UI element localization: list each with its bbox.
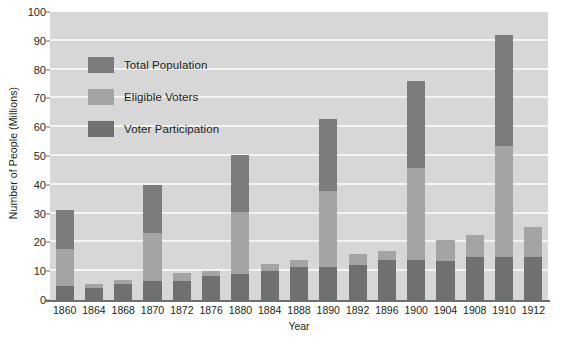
chart-legend: Total PopulationEligible VotersVoter Par…: [88, 54, 219, 150]
legend-item-label: Eligible Voters: [124, 91, 198, 103]
y-tick-label: 50: [18, 151, 46, 162]
x-tick-label: 1908: [463, 303, 486, 317]
bar-segment-eligible-voters: [349, 254, 367, 265]
bar-segment-voter-participation: [495, 257, 513, 300]
bar-segment-eligible-voters: [261, 264, 279, 271]
bar-segment-eligible-voters: [143, 233, 161, 281]
x-axis-title: Year: [50, 320, 548, 332]
bar-group[interactable]: [114, 280, 132, 300]
y-tick-label: 40: [18, 179, 46, 190]
x-tick-label: 1896: [375, 303, 398, 317]
x-axis-line: [46, 300, 550, 302]
bar-segment-voter-participation: [114, 284, 132, 300]
bar-segment-voter-participation: [319, 267, 337, 300]
y-tick-mark: [46, 69, 50, 70]
bar-segment-voter-participation: [524, 257, 542, 300]
bar-group[interactable]: [173, 273, 191, 300]
bar-segment-voter-participation: [290, 267, 308, 300]
legend-item[interactable]: Voter Participation: [88, 118, 219, 140]
y-tick-mark: [46, 98, 50, 99]
legend-item[interactable]: Eligible Voters: [88, 86, 219, 108]
bar-group[interactable]: [143, 185, 161, 300]
bar-group[interactable]: [261, 264, 279, 300]
bar-group[interactable]: [466, 235, 484, 300]
x-tick-label: 1900: [404, 303, 427, 317]
bar-segment-voter-participation: [202, 276, 220, 300]
bar-group[interactable]: [231, 155, 249, 300]
x-tick-label: 1876: [199, 303, 222, 317]
y-tick-label: 70: [18, 93, 46, 104]
legend-item[interactable]: Total Population: [88, 54, 219, 76]
bar-segment-eligible-voters: [466, 235, 484, 257]
y-tick-label: 20: [18, 237, 46, 248]
y-tick-mark: [46, 300, 50, 301]
y-tick-label: 80: [18, 64, 46, 75]
x-tick-label: 1904: [434, 303, 457, 317]
bar-segment-eligible-voters: [290, 260, 308, 267]
y-tick-label: 60: [18, 122, 46, 133]
y-tick-mark: [46, 271, 50, 272]
bar-chart: Number of People (Millions) 010203040506…: [0, 0, 572, 337]
x-tick-label: 1912: [522, 303, 545, 317]
x-tick-label: 1888: [287, 303, 310, 317]
y-tick-label: 100: [18, 7, 46, 18]
x-tick-label: 1860: [53, 303, 76, 317]
legend-swatch-icon: [88, 57, 114, 73]
y-axis-ticks: 0102030405060708090100: [18, 12, 46, 300]
bar-group[interactable]: [349, 254, 367, 300]
bar-segment-voter-participation: [261, 271, 279, 300]
bar-group[interactable]: [407, 81, 425, 300]
bar-segment-eligible-voters: [378, 251, 396, 260]
legend-item-label: Total Population: [124, 59, 207, 71]
y-tick-mark: [46, 12, 50, 13]
bar-group[interactable]: [495, 35, 513, 300]
bar-segment-voter-participation: [349, 265, 367, 300]
x-tick-label: 1864: [82, 303, 105, 317]
bar-segment-eligible-voters: [56, 249, 74, 287]
x-tick-label: 1910: [492, 303, 515, 317]
bar-group[interactable]: [56, 210, 74, 300]
x-tick-label: 1872: [170, 303, 193, 317]
x-tick-label: 1870: [141, 303, 164, 317]
bar-segment-eligible-voters: [524, 227, 542, 257]
bar-segment-voter-participation: [231, 274, 249, 300]
bar-segment-eligible-voters: [436, 240, 454, 262]
legend-swatch-icon: [88, 89, 114, 105]
y-tick-mark: [46, 156, 50, 157]
bar-group[interactable]: [202, 271, 220, 300]
bar-segment-voter-participation: [436, 261, 454, 300]
bar-segment-voter-participation: [378, 260, 396, 300]
x-tick-label: 1880: [229, 303, 252, 317]
x-tick-label: 1868: [112, 303, 135, 317]
bar-segment-voter-participation: [173, 281, 191, 300]
bar-group[interactable]: [290, 260, 308, 300]
bar-segment-voter-participation: [407, 260, 425, 300]
y-tick-mark: [46, 213, 50, 214]
y-tick-mark: [46, 242, 50, 243]
bar-group[interactable]: [319, 119, 337, 300]
y-tick-label: 0: [18, 295, 46, 306]
bar-segment-eligible-voters: [407, 168, 425, 260]
bar-group[interactable]: [436, 240, 454, 300]
bar-group[interactable]: [524, 227, 542, 300]
legend-swatch-icon: [88, 121, 114, 137]
y-tick-label: 90: [18, 35, 46, 46]
bar-group[interactable]: [378, 251, 396, 300]
legend-item-label: Voter Participation: [124, 123, 219, 135]
x-tick-label: 1884: [258, 303, 281, 317]
x-axis-ticks: 1860186418681870187218761880188418881890…: [50, 303, 548, 319]
bar-segment-eligible-voters: [231, 212, 249, 273]
y-tick-mark: [46, 40, 50, 41]
y-tick-mark: [46, 184, 50, 185]
y-tick-mark: [46, 127, 50, 128]
bar-segment-voter-participation: [85, 288, 103, 300]
y-tick-label: 10: [18, 266, 46, 277]
bar-group[interactable]: [85, 284, 103, 300]
bar-segment-voter-participation: [143, 281, 161, 300]
bar-segment-eligible-voters: [495, 146, 513, 257]
x-tick-label: 1892: [346, 303, 369, 317]
bar-segment-voter-participation: [56, 286, 74, 300]
bar-segment-eligible-voters: [173, 273, 191, 282]
x-tick-label: 1890: [317, 303, 340, 317]
bar-segment-voter-participation: [466, 257, 484, 300]
